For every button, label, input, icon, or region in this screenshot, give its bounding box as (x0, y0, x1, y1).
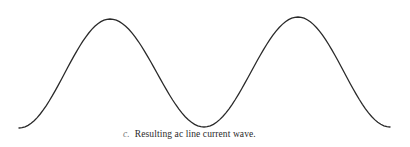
figure-caption: c.Resulting ac line current wave. (123, 129, 256, 139)
caption-text: Resulting ac line current wave. (135, 129, 256, 139)
current-wave-plot (0, 0, 410, 147)
current-waveform-line (19, 17, 390, 128)
caption-label: c. (123, 129, 130, 139)
